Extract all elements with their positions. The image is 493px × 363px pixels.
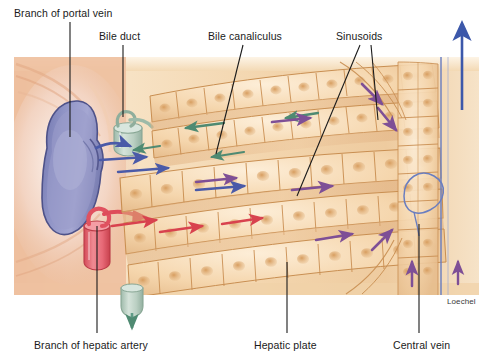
liver-lobule-figure bbox=[0, 0, 493, 363]
artist-signature: Loechel bbox=[447, 297, 476, 306]
label-central-vein: Central vein bbox=[393, 340, 450, 351]
label-hepatic-plate: Hepatic plate bbox=[254, 340, 317, 351]
label-bile-canaliculus: Bile canaliculus bbox=[208, 31, 282, 42]
illustration-page: Branch of portal vein Bile duct Bile can… bbox=[0, 0, 493, 363]
label-sinusoids: Sinusoids bbox=[336, 31, 382, 42]
perivenous-cells bbox=[398, 62, 438, 296]
illustration-panel bbox=[6, 57, 479, 298]
label-branch-of-portal-vein: Branch of portal vein bbox=[14, 8, 112, 19]
label-bile-duct: Bile duct bbox=[99, 31, 140, 42]
label-branch-of-hepatic-artery: Branch of hepatic artery bbox=[34, 340, 148, 351]
hepatic-plates bbox=[120, 62, 446, 298]
bile-duct-lower bbox=[121, 284, 143, 328]
